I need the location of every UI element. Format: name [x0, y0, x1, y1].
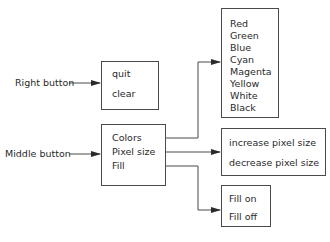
right-button-label: Right button — [15, 77, 74, 89]
menu-item-increase-pixel-size[interactable]: increase pixel size — [229, 137, 316, 149]
colors-connector-arrow — [165, 62, 220, 138]
menu-item-colors[interactable]: Colors — [112, 132, 142, 144]
color-item-magenta[interactable]: Magenta — [230, 66, 271, 78]
fill-connector-arrow — [165, 166, 220, 210]
menu-item-pixel-size[interactable]: Pixel size — [112, 146, 155, 158]
menu-item-quit[interactable]: quit — [112, 68, 130, 80]
color-item-black[interactable]: Black — [230, 102, 256, 114]
color-item-red[interactable]: Red — [230, 18, 248, 30]
color-item-cyan[interactable]: Cyan — [230, 54, 254, 66]
menu-item-fill-on[interactable]: Fill on — [229, 193, 257, 205]
menu-item-clear[interactable]: clear — [112, 88, 135, 100]
color-item-blue[interactable]: Blue — [230, 42, 251, 54]
menu-item-decrease-pixel-size[interactable]: decrease pixel size — [229, 157, 319, 169]
color-item-yellow[interactable]: Yellow — [230, 78, 259, 90]
colors-submenu: Red Green Blue Cyan Magenta Yellow White… — [221, 8, 279, 118]
middle-button-label: Middle button — [5, 148, 71, 160]
color-item-green[interactable]: Green — [230, 30, 259, 42]
color-item-white[interactable]: White — [230, 90, 258, 102]
connector-lines — [0, 0, 330, 242]
menu-item-fill-off[interactable]: Fill off — [229, 211, 257, 223]
fill-submenu: Fill on Fill off — [221, 185, 271, 227]
pixel-size-submenu: increase pixel size decrease pixel size — [221, 128, 326, 176]
middle-button-menu: Colors Pixel size Fill — [101, 124, 166, 186]
right-button-menu: quit clear — [101, 61, 159, 110]
menu-item-fill[interactable]: Fill — [112, 160, 125, 172]
